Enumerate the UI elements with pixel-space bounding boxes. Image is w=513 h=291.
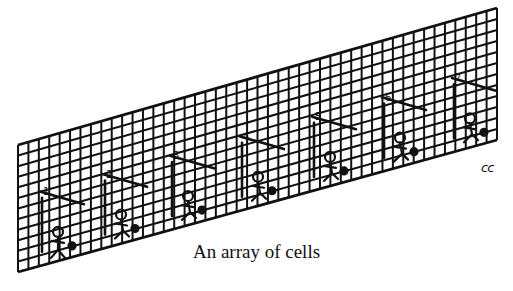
svg-text:6: 6 [385,92,391,103]
figure-caption: An array of cells [0,241,513,263]
artist-signature: cc [481,160,493,175]
svg-text:2: 2 [106,169,112,180]
svg-text:4: 4 [243,131,249,142]
grid [18,8,497,272]
svg-text:7: 7 [455,72,461,83]
svg-text:5: 5 [315,111,321,122]
svg-text:1: 1 [43,186,49,197]
svg-text:3: 3 [173,150,179,161]
